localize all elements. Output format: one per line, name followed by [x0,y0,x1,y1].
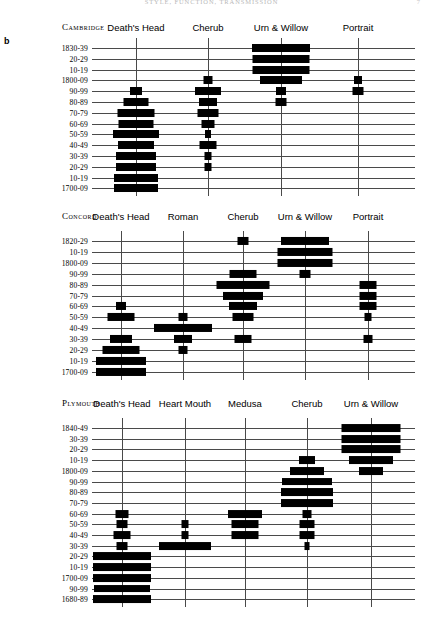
frequency-bar [200,141,217,149]
frequency-bar [110,335,132,343]
column-header: Cherub [192,22,223,33]
running-head: STYLE, FUNCTION, TRANSMISSION [0,0,423,7]
frequency-bar [182,531,189,539]
frequency-bar [223,291,263,299]
decade-row-label: 70-79 [70,291,88,300]
frequency-bar [117,542,128,550]
frequency-bar [232,531,259,539]
decade-row-label: 60-69 [70,302,88,311]
decade-row-label: 1800-09 [62,466,88,475]
decade-row-label: 1680-89 [62,595,88,604]
frequency-bar [114,531,131,539]
frequency-bar [305,542,310,550]
decade-row-label: 70-79 [70,108,88,117]
frequency-bar [113,130,159,138]
decade-row-label: 60-69 [70,119,88,128]
frequency-bar [354,76,362,84]
gridline [92,492,415,493]
decade-row-label: 30-39 [70,152,88,161]
decade-row-label: 10-19 [70,65,88,74]
site-name-label: Cambridge [62,22,105,32]
frequency-bar [154,324,212,332]
frequency-bar [342,424,401,432]
frequency-bar [116,163,156,171]
decade-row-label: 10-19 [70,356,88,365]
frequency-bar [159,542,211,550]
frequency-bar [253,66,310,74]
frequency-bar [276,98,287,106]
decade-row-label: 1800-09 [62,258,88,267]
decade-row-label: 60-69 [70,509,88,518]
column-header: Portrait [353,211,384,222]
gridline [92,252,415,253]
frequency-bar [278,259,333,267]
column-header: Urn & Willow [278,211,332,222]
decade-row-label: 90-99 [70,584,88,593]
decade-row-label: 1700-09 [62,184,88,193]
decade-row-label: 90-99 [70,269,88,278]
frequency-bar [353,87,364,95]
frequency-bar [252,44,310,52]
frequency-bar [232,520,259,528]
frequency-bar [230,270,257,278]
frequency-bar [117,520,128,528]
gridline [92,263,415,264]
frequency-bar [96,368,146,376]
column-header: Portrait [343,22,374,33]
decade-row-label: 1700-09 [62,573,88,582]
frequency-bar [349,456,393,464]
frequency-bar [281,488,333,496]
decade-row-label: 40-49 [70,324,88,333]
decade-row-label: 10-19 [70,456,88,465]
decade-row-label: 30-39 [70,335,88,344]
frequency-bar [204,76,213,84]
gridline [92,241,415,242]
frequency-bar [360,281,377,289]
frequency-bar [182,520,189,528]
decade-row-label: 80-89 [70,280,88,289]
frequency-bar [238,237,249,245]
frequency-bar [118,109,155,117]
column-centerline [358,38,359,196]
frequency-bar [276,87,286,95]
frequency-bar [205,163,212,171]
frequency-bar [174,335,192,343]
decade-row-label: 80-89 [70,488,88,497]
frequency-bar [114,174,158,182]
decade-row-label: 20-29 [70,346,88,355]
column-header: Cherub [227,211,258,222]
frequency-bar [119,120,154,128]
decade-row-label: 40-49 [70,531,88,540]
column-centerline [183,231,184,380]
frequency-bar [282,478,332,486]
decade-row-label: 90-99 [70,87,88,96]
frequency-bar [342,445,401,453]
frequency-bar [93,574,151,582]
frequency-bar [253,55,310,63]
figure-page: STYLE, FUNCTION, TRANSMISSION 7 b Cambri… [0,0,423,620]
frequency-bar [281,237,329,245]
decade-row-label: 50-59 [70,520,88,529]
column-header: Death's Head [92,211,149,222]
decade-row-label: 40-49 [70,141,88,150]
frequency-bar [205,152,212,160]
frequency-bar [233,313,254,321]
frequency-bar [229,302,257,310]
frequency-bar [96,357,146,365]
frequency-bar [179,346,188,354]
column-header: Medusa [228,398,262,409]
frequency-bar [278,248,333,256]
frequency-bar [281,499,333,507]
frequency-bar [260,76,302,84]
gridline [92,80,415,81]
column-header: Heart Mouth [159,398,211,409]
column-centerline [208,38,209,196]
decade-row-label: 70-79 [70,498,88,507]
column-header: Cherub [291,398,322,409]
gridline [92,482,415,483]
page-folio: 7 [417,0,420,5]
column-header: Death's Head [93,398,150,409]
decade-row-label: 30-39 [70,434,88,443]
decade-row-label: 20-29 [70,552,88,561]
frequency-bar [94,585,150,593]
